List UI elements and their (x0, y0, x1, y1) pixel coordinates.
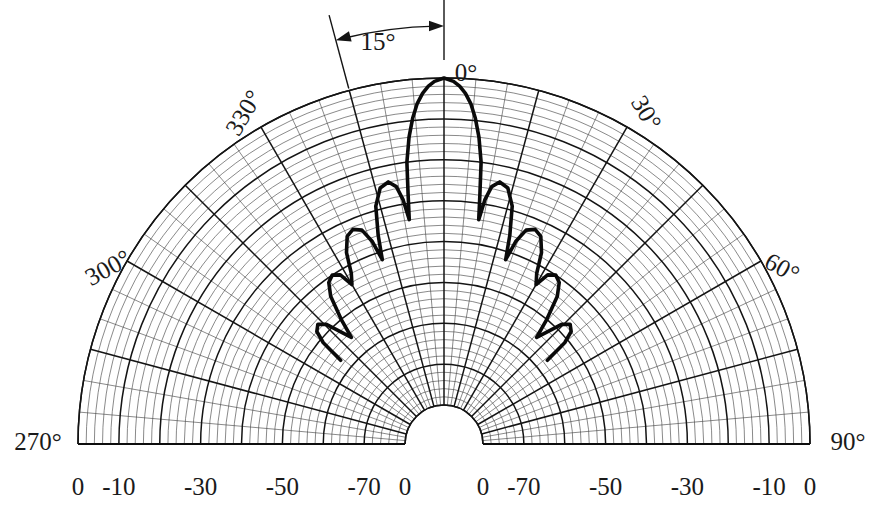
radial-tick-left-inner-0: 0 (399, 473, 412, 501)
polar-plot-canvas (0, 0, 887, 526)
radial-tick-left-0: 0 (72, 473, 85, 501)
grid-spoke--45deg (185, 185, 416, 416)
grid-spoke-45deg (472, 185, 703, 416)
grid-spokes-major (78, 78, 810, 444)
grid-spoke-15deg (454, 90, 539, 406)
annotation-arrowhead (336, 31, 352, 41)
angle-label-270: 270° (14, 428, 62, 456)
radial-tick-right-m10: -10 (752, 473, 785, 501)
angle-label-0: 0° (455, 59, 478, 87)
annotation-arrowhead (429, 21, 444, 31)
grid-spoke--75deg (90, 349, 406, 434)
radial-tick-right-m70: -70 (507, 473, 540, 501)
polar-radiation-pattern-figure: 270° 300° 330° 0° 30° 60° 90° 15° 0 -10 … (0, 0, 887, 526)
radial-tick-left-m50: -50 (266, 473, 299, 501)
radial-tick-right-0: 0 (804, 473, 817, 501)
radial-tick-right-inner-0: 0 (477, 473, 490, 501)
radial-tick-left-m10: -10 (102, 473, 135, 501)
radial-tick-right-m30: -30 (671, 473, 704, 501)
radial-tick-left-m70: -70 (347, 473, 380, 501)
annotation-leader-0 (329, 15, 349, 88)
inner-rim (405, 405, 483, 444)
grid-ring--80db (405, 405, 483, 444)
radial-tick-left-m30: -30 (184, 473, 217, 501)
annotation-15-degrees: 15° (361, 28, 396, 56)
grid-spoke--15deg (349, 90, 434, 406)
angle-label-90: 90° (831, 428, 866, 456)
grid-spoke-75deg (482, 349, 798, 434)
radial-tick-right-m50: -50 (589, 473, 622, 501)
